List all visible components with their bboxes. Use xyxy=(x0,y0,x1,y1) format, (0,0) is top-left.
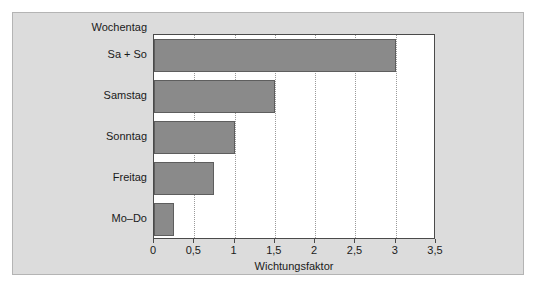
x-axis-tick-label: 1 xyxy=(231,244,237,256)
x-axis-tick-labels: 00,511,522,533,5 xyxy=(153,239,435,257)
bar-row xyxy=(154,158,434,199)
bar xyxy=(154,80,275,113)
x-axis-tick-label: 3 xyxy=(392,244,398,256)
bar xyxy=(154,203,174,236)
x-axis-tick-mark xyxy=(354,239,355,243)
x-axis-tick-mark xyxy=(314,239,315,243)
x-axis-tick-label: 2,5 xyxy=(347,244,362,256)
y-axis-title: Wochentag xyxy=(21,21,147,33)
x-axis-tick-mark xyxy=(395,239,396,243)
y-axis-tick-label: Sa + So xyxy=(27,49,147,60)
bar-row xyxy=(154,76,434,117)
x-axis-title: Wichtungsfaktor xyxy=(153,260,435,272)
x-axis-tick-mark xyxy=(234,239,235,243)
plot-area xyxy=(153,34,435,239)
x-axis-tick-label: 0 xyxy=(150,244,156,256)
bar xyxy=(154,39,396,72)
bar-row xyxy=(154,199,434,240)
x-axis-tick-mark xyxy=(435,239,436,243)
bar-row xyxy=(154,35,434,76)
x-axis-tick-mark xyxy=(193,239,194,243)
x-axis-tick-mark xyxy=(153,239,154,243)
bar xyxy=(154,162,214,195)
chart-figure: Wochentag Sa + SoSamstagSonntagFreitagMo… xyxy=(12,12,524,275)
x-axis-tick-label: 1,5 xyxy=(266,244,281,256)
x-axis-tick-label: 0,5 xyxy=(186,244,201,256)
x-axis-tick-mark xyxy=(274,239,275,243)
y-axis-tick-label: Mo–Do xyxy=(27,213,147,224)
x-axis-tick-label: 2 xyxy=(311,244,317,256)
y-axis-tick-label: Freitag xyxy=(27,172,147,183)
y-axis-tick-label: Samstag xyxy=(27,90,147,101)
y-axis-tick-label: Sonntag xyxy=(27,131,147,142)
bar-row xyxy=(154,117,434,158)
bar xyxy=(154,121,235,154)
y-axis-tick-labels: Sa + SoSamstagSonntagFreitagMo–Do xyxy=(21,34,147,239)
x-axis-tick-label: 3,5 xyxy=(427,244,442,256)
